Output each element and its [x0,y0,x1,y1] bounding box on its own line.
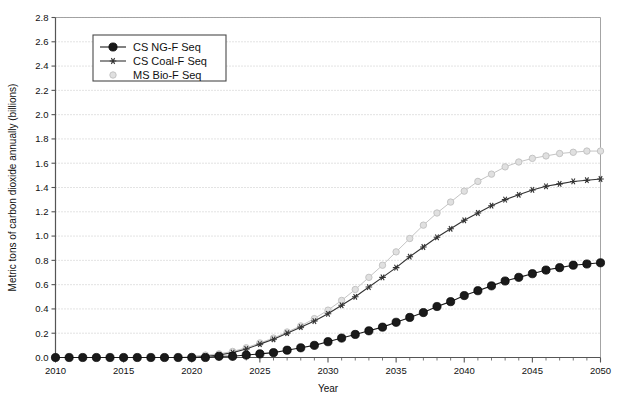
data-point-marker [556,181,563,187]
y-axis-tick-label: 2.4 [35,60,48,71]
data-point-marker [160,353,168,361]
data-point-marker [297,344,305,352]
data-point-marker [338,297,344,303]
y-axis-tick-label: 1.2 [35,206,48,217]
data-point-marker [543,183,550,189]
data-point-marker [406,313,414,321]
data-point-marker [365,327,373,335]
data-point-marker [447,199,453,205]
data-point-marker [269,349,277,357]
y-axis-tick-label: 2.6 [35,36,48,47]
x-axis-tick-label: 2025 [249,365,270,376]
data-point-marker [516,159,522,165]
data-point-marker [515,192,522,198]
data-point-marker [120,353,128,361]
data-point-marker [92,353,100,361]
data-point-marker [106,353,114,361]
data-point-marker [529,187,536,193]
data-point-marker [488,203,495,209]
legend-label: CS Coal-F Seq [133,55,207,67]
y-axis-tick-label: 0.6 [35,279,48,290]
data-point-marker [528,270,536,278]
y-axis-tick-label: 1.0 [35,230,48,241]
data-point-marker [256,350,264,358]
data-point-marker [310,341,318,349]
y-axis-tick-label: 0.8 [35,255,48,266]
series-line [56,179,601,358]
data-point-marker [501,277,509,285]
data-point-marker [583,260,591,268]
data-point-marker [109,43,117,51]
data-point-marker [556,264,564,272]
data-point-marker [174,353,182,361]
data-point-marker [419,308,427,316]
x-axis-tick-label: 2015 [113,365,134,376]
y-axis-tick-label: 0.4 [35,303,48,314]
data-point-marker [542,266,550,274]
data-point-marker [283,346,291,354]
data-point-marker [556,150,562,156]
data-point-marker [570,149,576,155]
data-point-marker [51,353,59,361]
data-point-marker [502,164,508,170]
x-axis-tick-label: 2040 [454,365,475,376]
y-axis-tick-label: 0.0 [35,352,48,363]
data-point-marker [133,353,141,361]
series-line [56,151,601,357]
data-point-marker [79,353,87,361]
data-point-marker [352,286,358,292]
data-point-marker [65,353,73,361]
data-point-marker [447,298,455,306]
data-point-marker [515,273,523,281]
x-axis-tick-label: 2030 [317,365,338,376]
y-axis-tick-label: 1.4 [35,182,48,193]
data-point-marker [487,282,495,290]
y-axis-tick-label: 2.0 [35,109,48,120]
data-point-marker [584,148,590,154]
data-point-marker [201,353,209,361]
data-point-marker [596,259,604,267]
data-point-marker [475,210,482,216]
data-point-marker [584,177,591,183]
data-point-marker [351,330,359,338]
series-ms-bio-f-seq [52,148,603,361]
y-axis-title: Metric tons of carbon dioxide annually (… [7,84,18,292]
data-point-marker [324,338,332,346]
y-axis-tick-label: 2.2 [35,85,48,96]
data-point-marker [475,178,481,184]
data-point-marker [242,351,250,359]
data-point-marker [434,210,440,216]
data-point-marker [420,222,426,228]
chart-container: 0.00.20.40.60.81.01.21.41.61.82.02.22.42… [0,0,627,408]
y-axis-tick-label: 1.6 [35,158,48,169]
data-point-marker [433,302,441,310]
data-point-marker [460,291,468,299]
y-axis-tick-label: 0.2 [35,328,48,339]
x-axis-tick-label: 2050 [590,365,611,376]
x-axis-title: Year [318,383,339,394]
data-point-marker [379,262,385,268]
data-point-marker [188,353,196,361]
data-point-marker [378,323,386,331]
data-point-marker [215,352,223,360]
data-point-marker [502,197,509,203]
data-point-marker [529,155,535,161]
data-point-marker [147,353,155,361]
data-point-marker [543,153,549,159]
data-point-marker [393,249,399,255]
x-axis-tick-label: 2020 [181,365,202,376]
y-axis-tick-label: 1.8 [35,133,48,144]
line-chart: 0.00.20.40.60.81.01.21.41.61.82.02.22.42… [0,0,627,408]
x-axis-tick-label: 2045 [522,365,543,376]
data-point-marker [338,334,346,342]
data-point-marker [569,261,577,269]
data-point-marker [570,179,577,185]
x-axis-tick-label: 2010 [45,365,66,376]
legend-label: CS NG-F Seq [133,41,201,53]
x-axis-tick-label: 2035 [386,365,407,376]
chart-legend: CS NG-F SeqCS Coal-F SeqMS Bio-F Seq [93,35,226,81]
data-point-marker [392,318,400,326]
data-point-marker [461,188,467,194]
data-point-marker [229,352,237,360]
data-point-marker [474,287,482,295]
